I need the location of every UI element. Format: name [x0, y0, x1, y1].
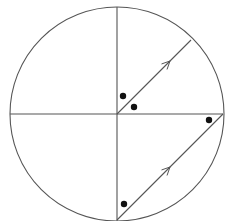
dot-near-center-upper	[120, 93, 126, 99]
dot-bottom	[121, 201, 127, 207]
upper-radius-line	[117, 40, 191, 114]
dot-right-end	[206, 117, 212, 123]
circle-geometry-diagram	[0, 0, 225, 221]
dot-near-center-right	[131, 104, 137, 110]
